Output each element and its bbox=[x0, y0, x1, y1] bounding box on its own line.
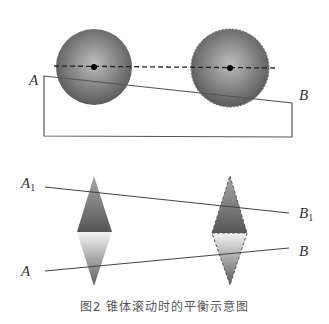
left-center-dot bbox=[91, 64, 97, 70]
rail-a1-b1 bbox=[45, 187, 289, 213]
label-b-top: B bbox=[299, 87, 308, 103]
label-b-bottom: B bbox=[299, 243, 308, 259]
left-cone-upper bbox=[77, 176, 112, 232]
left-cone-lower bbox=[77, 232, 112, 286]
right-center-dot bbox=[227, 65, 233, 71]
bottom-diagram: A1 B1 A B bbox=[20, 175, 313, 286]
right-cone-upper bbox=[212, 176, 247, 233]
label-b1: B1 bbox=[299, 205, 313, 223]
figure-caption: 图2 锥体滚动时的平衡示意图 bbox=[0, 297, 329, 314]
label-a-bottom: A bbox=[20, 263, 31, 279]
label-a-top: A bbox=[28, 72, 39, 88]
label-a1: A1 bbox=[20, 175, 35, 193]
rail-a-b bbox=[45, 248, 289, 271]
balance-diagram: A B A1 B1 A B bbox=[0, 0, 329, 324]
top-diagram: A B bbox=[28, 29, 308, 137]
right-cone-lower bbox=[212, 233, 247, 285]
